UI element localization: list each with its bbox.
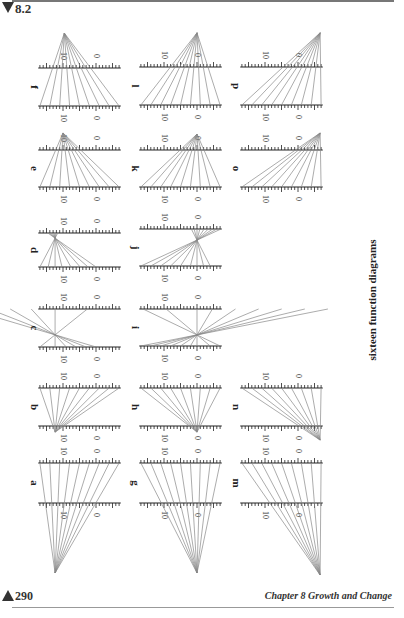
tick-label: 0 — [92, 136, 101, 140]
input-axis: 100 — [38, 106, 121, 122]
diagram-i: 100100i — [130, 293, 328, 362]
diagram-label: d — [29, 247, 41, 253]
mapping-line — [141, 229, 221, 266]
tick-label: 10 — [59, 372, 68, 380]
tick-label: 0 — [193, 215, 202, 219]
mapping-line — [252, 33, 320, 105]
tick-label: 10 — [160, 134, 169, 142]
mapping-line — [40, 463, 55, 573]
output-axis: 100 — [139, 293, 222, 309]
mapping-line — [242, 33, 320, 105]
diagram-g: 100100g — [130, 447, 222, 573]
tick-label: 10 — [261, 511, 270, 519]
mapping-line — [161, 229, 213, 266]
tick-label: 10 — [160, 447, 169, 455]
diagram-h: 100100h — [130, 372, 222, 442]
mapping-line — [151, 463, 197, 573]
tick-label: 0 — [92, 449, 101, 453]
mapping-line — [171, 33, 197, 105]
diagram-l: 100100l — [130, 33, 222, 121]
input-axis: 100 — [139, 105, 222, 121]
input-axis: 100 — [38, 426, 121, 442]
diagram-b: 100100b — [29, 372, 121, 442]
tick-label: 10 — [59, 217, 68, 225]
tick-label: 10 — [261, 434, 270, 442]
tick-label: 0 — [92, 436, 101, 440]
tick-label: 0 — [92, 277, 101, 281]
mapping-line — [320, 33, 321, 105]
diagram-o: 100100o — [231, 133, 323, 203]
diagram-label: c — [29, 326, 41, 331]
diagram-f: 100100f — [29, 33, 121, 122]
tick-label: 0 — [294, 136, 303, 140]
output-axis: 100 — [38, 447, 121, 463]
figure-caption: sixteen function diagrams — [366, 240, 378, 361]
tick-label: 10 — [160, 372, 169, 380]
output-axis: 100 — [139, 134, 222, 150]
mapping-line — [40, 309, 87, 347]
diagram-label: m — [231, 478, 243, 487]
output-axis: 100 — [38, 52, 121, 68]
tick-label: 10 — [160, 293, 169, 301]
diagram-label: f — [29, 85, 41, 89]
function-diagrams-figure: 100100f100100e100100d100100c100100b10010… — [0, 0, 404, 618]
input-axis: 100 — [139, 266, 222, 282]
triangle-up-icon — [2, 590, 14, 601]
mapping-line — [320, 388, 321, 440]
footer-rule — [12, 607, 394, 608]
input-axis: 100 — [38, 503, 121, 519]
tick-label: 0 — [193, 295, 202, 299]
tick-label: 0 — [92, 374, 101, 378]
diagram-label: k — [130, 165, 142, 172]
mapping-line — [282, 133, 321, 187]
diagram-label: e — [29, 166, 41, 171]
diagram-d: 100100d — [29, 217, 121, 283]
output-axis: 100 — [139, 372, 222, 388]
tick-label: 0 — [193, 115, 202, 119]
diagram-k: 100100k — [130, 134, 222, 203]
diagram-c: 100100c — [0, 293, 121, 363]
tick-label: 10 — [160, 511, 169, 519]
tick-label: 0 — [193, 276, 202, 280]
tick-label: 10 — [59, 447, 68, 455]
mapping-line — [171, 309, 259, 346]
tick-label: 10 — [59, 195, 68, 203]
tick-label: 0 — [294, 449, 303, 453]
diagram-j: 100100j — [130, 213, 222, 282]
tick-label: 0 — [92, 357, 101, 361]
mapping-line — [190, 229, 199, 266]
mapping-line — [64, 33, 69, 106]
tick-label: 10 — [261, 372, 270, 380]
tick-label: 10 — [160, 274, 169, 282]
mapping-line — [242, 463, 320, 575]
diagram-a: 100100a — [29, 447, 121, 573]
mapping-line — [262, 463, 320, 575]
mapping-line — [0, 309, 96, 347]
output-axis: 100 — [240, 372, 323, 388]
tick-label: 10 — [261, 447, 270, 455]
mapping-line — [301, 463, 320, 575]
diagram-e: 100100e — [29, 133, 121, 203]
input-axis: 100 — [139, 346, 222, 362]
mapping-line — [252, 463, 320, 575]
mapping-line — [64, 33, 89, 106]
tick-label: 0 — [294, 436, 303, 440]
mapping-line — [64, 33, 99, 106]
chapter-title: Chapter 8 Growth and Change — [265, 590, 392, 601]
diagram-label: p — [231, 83, 243, 89]
tick-label: 0 — [193, 197, 202, 201]
output-axis: 100 — [38, 372, 121, 388]
input-axis: 100 — [38, 347, 121, 363]
mapping-line — [10, 309, 76, 347]
tick-label: 10 — [59, 293, 68, 301]
mapping-line — [50, 463, 55, 573]
mapping-line — [320, 133, 321, 187]
output-axis: 100 — [240, 51, 323, 67]
mapping-line — [301, 388, 320, 440]
mapping-line — [301, 33, 320, 105]
mapping-line — [320, 463, 321, 575]
page-number: 290 — [15, 589, 33, 604]
mapping-line — [161, 309, 282, 346]
output-axis: 100 — [38, 293, 121, 309]
tick-label: 10 — [261, 134, 270, 142]
